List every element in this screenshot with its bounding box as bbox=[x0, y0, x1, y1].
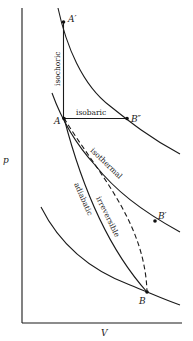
upper-isotherm-curve bbox=[58, 8, 180, 154]
pv-diagram: A′ A B″ B′ B p V isochoric isobaric isot… bbox=[0, 0, 193, 341]
point-b-double-prime-marker bbox=[125, 117, 129, 121]
label-b: B bbox=[138, 296, 146, 306]
isochoric-label: isochoric bbox=[53, 52, 62, 87]
label-a: A bbox=[53, 116, 61, 126]
label-b-prime: B′ bbox=[157, 211, 167, 221]
label-b-double-prime: B″ bbox=[130, 114, 142, 124]
p-axis-label: p bbox=[3, 155, 9, 165]
isobaric-label: isobaric bbox=[76, 108, 106, 117]
point-a-marker bbox=[62, 117, 66, 121]
point-b-marker bbox=[145, 290, 149, 294]
point-b-prime-marker bbox=[153, 219, 157, 223]
point-a-prime-marker bbox=[62, 20, 66, 24]
v-axis-label: V bbox=[101, 328, 109, 338]
label-a-prime: A′ bbox=[67, 14, 77, 24]
